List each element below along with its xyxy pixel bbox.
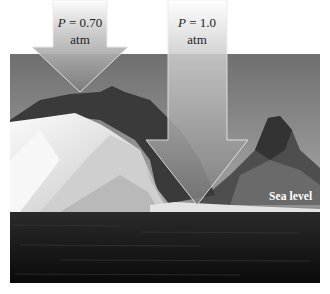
pressure-label-left: P = 0.70 atm [50,14,110,48]
figure: P = 0.70 atm P = 1.0 atm Sea level [0,0,330,294]
pressure-symbol: P [58,15,66,30]
sea-level-label: Sea level [269,190,312,202]
pressure-label-right: P = 1.0 atm [167,14,227,48]
pressure-unit: atm [167,31,227,48]
pressure-unit: atm [50,31,110,48]
photo [10,54,320,283]
pressure-value: = 1.0 [186,15,216,30]
pressure-symbol: P [178,15,186,30]
pressure-value: = 0.70 [66,15,103,30]
